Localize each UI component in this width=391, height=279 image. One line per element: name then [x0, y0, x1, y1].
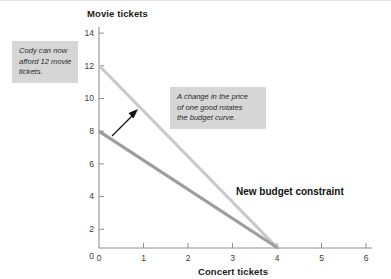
y-tick-label-12: 12: [78, 61, 94, 71]
y-tick-label-10: 10: [78, 93, 94, 103]
y-axis-title: Movie tickets: [87, 8, 148, 19]
y-tick-label-14: 14: [78, 28, 94, 38]
x-tick-label-3: 3: [225, 253, 241, 263]
x-axis-title: Concert tickets: [198, 266, 268, 277]
y-tick-label-8: 8: [78, 126, 94, 136]
callout-price-change: A change in the price of one good rotate…: [170, 87, 266, 129]
x-tick-label-5: 5: [314, 253, 330, 263]
x-tick-label-6: 6: [358, 253, 374, 263]
y-tick-label-4: 4: [78, 191, 94, 201]
rotation-arrow-icon: [112, 109, 138, 136]
x-tick-label-1: 1: [136, 253, 152, 263]
label-new-budget-constraint: New budget constraint: [236, 186, 344, 197]
callout-cody-affordability: Cody can now afford 12 movie tickets.: [12, 41, 78, 83]
y-tick-label-6: 6: [78, 159, 94, 169]
x-tick-label-4: 4: [269, 253, 285, 263]
x-tick-label-2: 2: [180, 253, 196, 263]
x-tick-label-0: 0: [91, 253, 107, 263]
budget-constraint-chart: Movie tickets Concert tickets 14 12 10 8…: [0, 0, 391, 279]
x-axis-ticks: [144, 243, 367, 248]
y-tick-label-2: 2: [78, 224, 94, 234]
